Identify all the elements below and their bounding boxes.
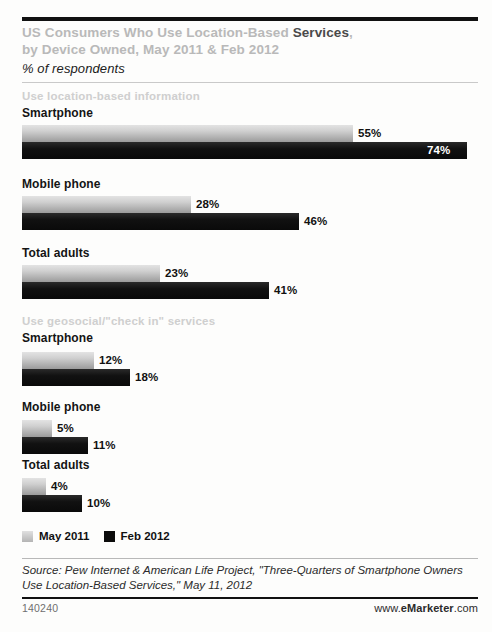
bar-value-label: 12% [99, 354, 122, 366]
bar-value-label: 23% [165, 267, 188, 279]
legend-label-feb-2012: Feb 2012 [121, 530, 170, 542]
bar-may-smartphone [22, 352, 94, 369]
bar-value-label: 74% [427, 144, 450, 156]
url-suffix: .com [454, 602, 478, 614]
bar-may-smartphone [22, 125, 353, 142]
legend-item-feb-2012: Feb 2012 [104, 530, 170, 542]
category-label: Mobile phone [22, 400, 101, 414]
chart-id: 140240 [22, 602, 58, 614]
url-prefix: www. [374, 602, 401, 614]
category-label: Total adults [22, 458, 90, 472]
legend-item-may-2011: May 2011 [22, 530, 90, 542]
category-label: Smartphone [22, 331, 93, 345]
bar-value-label: 55% [358, 127, 381, 139]
emarketer-url: www.eMarketer.com [374, 602, 478, 614]
chart-sheet: US Consumers Who Use Location-Based Serv… [0, 0, 492, 632]
category-label: Total adults [22, 246, 90, 260]
bar-value-label: 4% [51, 480, 68, 492]
legend-swatch-may-2011 [22, 531, 33, 542]
category-label: Smartphone [22, 106, 93, 120]
bar-may-total-adults [22, 265, 160, 282]
legend-label-may-2011: May 2011 [39, 530, 90, 542]
section-header: Use geosocial/"check in" services [22, 315, 215, 327]
footer-rule [22, 597, 478, 599]
section-header: Use location-based information [22, 90, 200, 102]
bar-value-label: 18% [135, 371, 158, 383]
bar-value-label: 46% [304, 215, 327, 227]
bar-feb-total-adults [22, 282, 269, 299]
bar-may-mobile-phone [22, 196, 191, 213]
bar-value-label: 41% [274, 284, 297, 296]
bar-feb-mobile-phone [22, 213, 299, 230]
bar-feb-smartphone [22, 142, 467, 159]
bar-feb-smartphone [22, 369, 130, 386]
bar-value-label: 28% [196, 198, 219, 210]
chart-legend: May 2011 Feb 2012 [22, 530, 170, 542]
bar-value-label: 5% [57, 422, 74, 434]
bar-value-label: 11% [93, 439, 116, 451]
bar-may-total-adults [22, 478, 46, 495]
legend-swatch-feb-2012 [104, 531, 115, 542]
url-brand-name: Marketer [407, 602, 454, 614]
category-label: Mobile phone [22, 177, 101, 191]
source-rule [22, 558, 478, 559]
bar-may-mobile-phone [22, 420, 52, 437]
bar-feb-mobile-phone [22, 437, 88, 454]
bar-value-label: 10% [87, 497, 110, 509]
bar-feb-total-adults [22, 495, 82, 512]
source-note: Source: Pew Internet & American Life Pro… [22, 563, 478, 593]
